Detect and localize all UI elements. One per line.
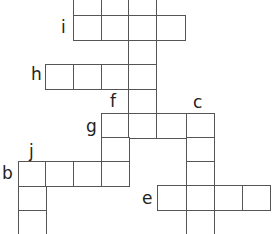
crossword-cell[interactable]: [101, 0, 130, 16]
clue-label-f: f: [110, 93, 116, 110]
clue-label-g: g: [86, 118, 97, 135]
crossword-cell[interactable]: [156, 15, 186, 41]
crossword-cell[interactable]: [101, 137, 130, 163]
crossword-cell[interactable]: [73, 0, 102, 16]
crossword-cell[interactable]: [186, 210, 215, 234]
crossword-cell[interactable]: [186, 161, 215, 187]
crossword-cell[interactable]: [157, 185, 188, 211]
crossword-cell[interactable]: [45, 161, 74, 187]
crossword-cell[interactable]: [186, 185, 215, 211]
crossword-cell[interactable]: [156, 113, 187, 139]
crossword-cell[interactable]: [73, 64, 102, 90]
clue-label-j: j: [29, 143, 34, 160]
crossword-cell[interactable]: [101, 15, 130, 41]
crossword-grid: ihfcgjbe: [0, 0, 275, 234]
crossword-cell[interactable]: [101, 64, 130, 90]
crossword-cell[interactable]: [186, 113, 215, 139]
crossword-cell[interactable]: [128, 64, 157, 90]
crossword-cell[interactable]: [128, 113, 157, 139]
crossword-cell[interactable]: [45, 64, 74, 90]
crossword-cell[interactable]: [73, 161, 102, 187]
crossword-cell[interactable]: [186, 137, 215, 163]
crossword-cell[interactable]: [128, 0, 157, 16]
crossword-cell[interactable]: [128, 89, 157, 115]
clue-label-b: b: [2, 165, 13, 182]
clue-label-h: h: [31, 66, 42, 83]
crossword-cell[interactable]: [73, 15, 102, 41]
crossword-cell[interactable]: [242, 185, 271, 211]
clue-label-i: i: [61, 19, 66, 36]
crossword-cell[interactable]: [18, 186, 47, 212]
crossword-cell[interactable]: [128, 15, 157, 41]
crossword-cell[interactable]: [128, 40, 157, 66]
clue-label-c: c: [193, 94, 202, 111]
crossword-cell[interactable]: [214, 185, 243, 211]
crossword-cell[interactable]: [101, 113, 130, 139]
crossword-cell[interactable]: [18, 210, 47, 234]
clue-label-e: e: [142, 190, 152, 207]
crossword-cell[interactable]: [101, 161, 130, 187]
crossword-cell[interactable]: [18, 161, 47, 187]
